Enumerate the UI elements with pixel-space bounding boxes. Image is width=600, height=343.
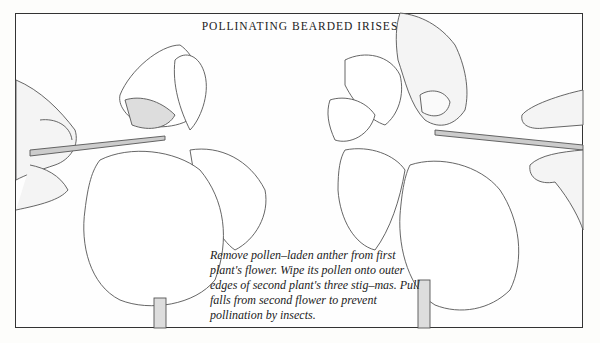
caption-text: Remove pollen–laden anther from first pl… bbox=[210, 248, 425, 323]
page-title: POLLINATING BEARDED IRISES bbox=[0, 20, 600, 32]
